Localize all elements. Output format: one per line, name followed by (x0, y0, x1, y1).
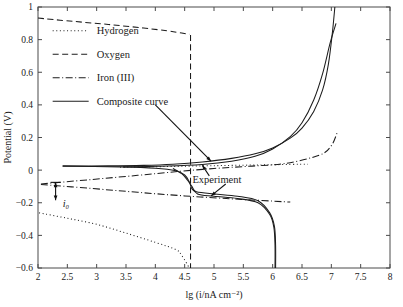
y-axis-tick-labels: 10.80.60.40.20−0.2−0.4−0.6 (16, 2, 33, 273)
x-tick-label: 7.5 (355, 272, 367, 282)
composite-curve-leader (155, 105, 211, 161)
y-axis-ticks (38, 7, 390, 268)
x-axis-tick-labels: 22.533.544.555.566.577.58 (36, 272, 393, 282)
x-tick-label: 4 (153, 272, 158, 282)
i0-label: i₀ (63, 198, 70, 209)
chart-legend: HydrogenOxygenIron (III)Composite curve (53, 25, 169, 107)
legend-label: Iron (III) (97, 72, 135, 84)
y-tick-label: 0.2 (21, 133, 33, 143)
y-tick-label: −0.6 (16, 263, 33, 273)
x-tick-label: 2 (36, 272, 41, 282)
experiment-label: Experiment (192, 174, 241, 185)
x-tick-label: 8 (388, 272, 393, 282)
x-axis-title: lg (i/nA cm⁻²) (185, 289, 242, 301)
y-tick-label: 1 (28, 2, 33, 12)
y-tick-label: 0 (28, 166, 33, 176)
x-axis-ticks (38, 7, 390, 268)
y-tick-label: −0.4 (16, 231, 33, 241)
chart-canvas: 22.533.544.555.566.577.58 10.80.60.40.20… (0, 0, 403, 307)
y-tick-label: 0.4 (21, 100, 33, 110)
y-tick-label: 0.6 (21, 68, 33, 78)
x-tick-label: 7 (329, 272, 334, 282)
series-composite-cathodic (63, 166, 276, 268)
x-tick-label: 6.5 (296, 272, 308, 282)
x-tick-label: 6 (270, 272, 275, 282)
y-axis-title: Potential (V) (2, 112, 14, 164)
legend-label: Oxygen (97, 49, 131, 60)
x-tick-label: 5.5 (237, 272, 249, 282)
legend-label: Hydrogen (97, 25, 140, 36)
legend-entry: Hydrogen (53, 25, 140, 36)
x-tick-label: 3.5 (120, 272, 132, 282)
legend-entry: Iron (III) (53, 72, 135, 84)
x-tick-label: 4.5 (179, 272, 191, 282)
series-iron-upper (41, 133, 337, 184)
legend-entry: Oxygen (53, 49, 131, 60)
series-hydrogen-cathodic (39, 213, 189, 268)
arrowhead (54, 195, 58, 200)
x-tick-label: 5 (212, 272, 217, 282)
legend-label: Composite curve (97, 96, 169, 107)
legend-entry: Composite curve (53, 96, 169, 107)
y-tick-label: −0.2 (16, 198, 33, 208)
x-tick-label: 3 (94, 272, 99, 282)
axes-frame (38, 7, 390, 268)
polarization-curve-figure: 22.533.544.555.566.577.58 10.80.60.40.20… (0, 0, 403, 307)
x-tick-label: 2.5 (61, 272, 73, 282)
y-tick-label: 0.8 (21, 35, 33, 45)
